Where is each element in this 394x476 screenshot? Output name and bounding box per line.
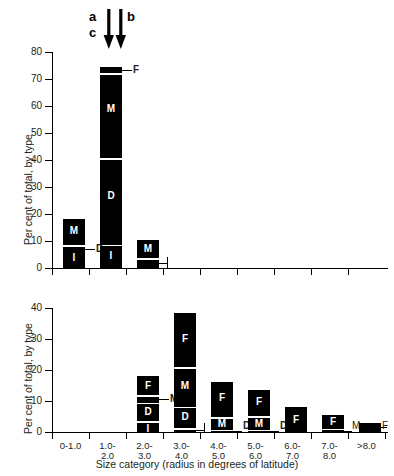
top-y-tick-label: 0 [18,263,42,273]
bottom-x-tick [311,433,312,439]
top-y-tick [45,106,52,107]
bar-segment-F [359,423,381,432]
top-y-tick-label: 60 [18,101,42,111]
bar-segment-label: I [100,251,122,261]
table-row: M I [63,219,85,268]
leader-line [344,431,352,432]
bottom-y-tick-label: 0 [18,427,42,437]
bottom-y-tick [45,370,52,371]
top-y-tick-label: 30 [18,182,42,192]
leader-line [122,70,132,71]
table-row: F M [211,382,233,432]
bar-segment-F [100,67,122,73]
top-y-tick [45,241,52,242]
bar-segment-label: I [63,253,85,263]
top-x-tick [200,269,201,275]
bar-segment-label: I [137,424,159,434]
bar-segment-D [248,431,270,433]
bar-segment-label: M [211,419,233,429]
bottom-x-tick [89,433,90,439]
bottom-x-tick [274,433,275,439]
bar-segment-label: F [137,381,159,391]
top-x-tick [348,269,349,275]
bar-segment-I [137,260,159,268]
top-x-tick [311,269,312,275]
bottom-x-tick [200,433,201,439]
bottom-x-tick [52,433,53,439]
bar-segment-label: F [248,397,270,407]
bottom-y-tick [45,432,52,433]
down-arrow-left-icon [103,9,115,49]
top-panel-y-axis [52,52,53,269]
bar-segment-M [100,75,122,158]
top-y-tick-label: 40 [18,155,42,165]
annotation-label-b: b [127,10,135,23]
bar-segment-I [174,430,196,433]
top-x-tick [52,269,53,275]
bar-segment-label: F [285,415,307,425]
bar-segment-M [322,430,344,432]
top-y-tick-label: 20 [18,209,42,219]
top-y-tick-label: 70 [18,74,42,84]
top-y-tick-label: 10 [18,236,42,246]
bottom-x-tick [237,433,238,439]
x-axis-title: Size category (radius in degrees of lati… [0,458,394,470]
table-row: F M [248,390,270,432]
top-y-tick [45,52,52,53]
bottom-x-tick [126,433,127,439]
bar-segment-label: M [100,104,122,114]
table-row: F D I [137,376,159,432]
bottom-x-tick [163,433,164,439]
bar-segment-D [211,431,233,433]
bar-segment-callout-F: F [382,421,388,431]
bar-segment-label: F [211,393,233,403]
bottom-x-tick [385,433,386,439]
bar-segment-label: M [137,244,159,254]
bottom-panel-y-axis [52,308,53,433]
bar-segment-label: M [63,226,85,236]
bar-segment-label: F [322,417,344,427]
bar-segment-label: M [174,381,196,391]
bottom-panel-x-axis [52,432,388,433]
top-x-tick [274,269,275,275]
bar-segment-label: D [137,407,159,417]
top-y-tick-label: 80 [18,47,42,57]
table-row: F [285,407,307,432]
top-y-tick-label: 50 [18,128,42,138]
table-row: M [137,240,159,268]
table-row: M D I [100,67,122,268]
bottom-y-tick [45,308,52,309]
top-y-tick [45,160,52,161]
leader-line [159,399,169,400]
table-row: F [322,415,344,432]
top-x-tick [163,269,164,275]
leader-line [85,249,95,250]
bottom-x-tick-label: 0-1.0 [52,441,89,451]
bottom-y-tick-label: 20 [18,365,42,375]
top-panel: Per cent of total, by type a c b 80 70 6… [0,0,394,285]
bottom-x-tick-label: >8.0 [348,441,385,451]
annotation-label-c: c [89,26,96,39]
leader-line [233,431,242,432]
bar-segment-label: M [248,419,270,429]
bottom-panel: Per cent of total, by type 40 30 20 10 0… [0,290,394,476]
top-panel-x-axis [52,268,388,269]
top-y-tick [45,187,52,188]
table-row: F M D [174,313,196,432]
bottom-y-tick-label: 40 [18,303,42,313]
bar-segment-M [137,397,159,403]
bottom-x-tick [348,433,349,439]
top-y-tick [45,268,52,269]
down-arrow-right-icon [115,9,127,49]
top-x-tick [126,269,127,275]
top-y-tick [45,79,52,80]
bottom-y-tick [45,401,52,402]
annotation-label-a: a [89,10,96,23]
bar-segment-label: D [100,191,122,201]
bar-segment-D [100,160,122,245]
bottom-y-tick [45,339,52,340]
top-y-tick [45,133,52,134]
bottom-y-tick-label: 10 [18,396,42,406]
bar-segment-label: F [174,334,196,344]
top-x-tick [89,269,90,275]
